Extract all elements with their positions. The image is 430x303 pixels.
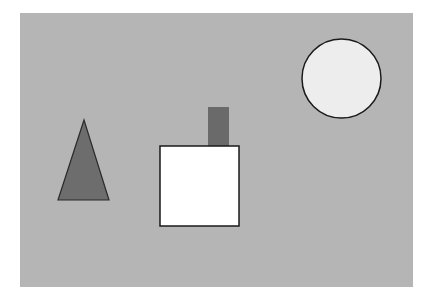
light-circle [302,39,381,118]
drawing-scene [0,0,430,303]
chimney-rectangle [208,107,229,146]
white-square [160,146,239,226]
